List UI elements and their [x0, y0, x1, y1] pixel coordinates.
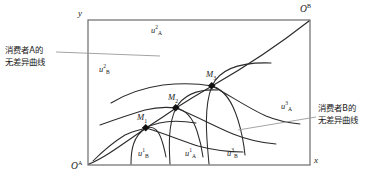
- annotation-consumer-b-line1: 消费者B的: [318, 103, 359, 115]
- point-label-M3: M3: [206, 70, 216, 82]
- M1-sub: 1: [144, 118, 147, 124]
- curve-label-u3A: u3A: [281, 101, 292, 113]
- leader-line-consumer-a: [56, 52, 160, 56]
- M2-sub: 2: [175, 98, 178, 104]
- edgeworth-box-figure: y x OA OB u2A u2B u3A u1B u1A u3B M1 M2 …: [0, 0, 381, 187]
- leader-line-consumer-b: [238, 117, 316, 130]
- contract-curve: [89, 21, 309, 164]
- annotation-consumer-a: 消费者A的 无差异曲线: [5, 45, 46, 68]
- curve-label-u2A: u2A: [151, 25, 162, 37]
- annotation-consumer-b-line2: 无差异曲线: [318, 115, 359, 127]
- origin-b-label: OB: [300, 3, 311, 15]
- y-axis-label: y: [78, 9, 82, 18]
- origin-a-base: O: [71, 161, 78, 171]
- annotation-leader-lines: [56, 52, 316, 130]
- origin-b-base: O: [300, 4, 307, 14]
- u1B-sub: B: [145, 153, 149, 159]
- consumer-a-indifference-curves: [131, 63, 271, 164]
- curve-label-u2B: u2B: [99, 64, 110, 76]
- M3-sub: 3: [213, 75, 216, 81]
- annotation-consumer-a-line1: 消费者A的: [5, 45, 46, 57]
- u2A-sub: A: [158, 30, 162, 36]
- point-label-M1: M1: [137, 113, 147, 125]
- u3A-sub: A: [288, 106, 292, 112]
- origin-a-label: OA: [71, 160, 82, 172]
- origin-a-sup: A: [78, 160, 82, 166]
- u3B-sub: B: [234, 153, 238, 159]
- u1A-sub: A: [192, 153, 196, 159]
- origin-b-sup: B: [307, 3, 311, 9]
- edgeworth-box-frame: [88, 20, 310, 165]
- curve-label-u3B: u3B: [227, 148, 238, 160]
- point-label-M2: M2: [168, 93, 178, 105]
- annotation-consumer-b: 消费者B的 无差异曲线: [318, 103, 359, 126]
- curve-label-u1B: u1B: [138, 148, 149, 160]
- annotation-consumer-a-line2: 无差异曲线: [5, 57, 46, 69]
- u2B-sub: B: [106, 69, 110, 75]
- x-axis-label: x: [314, 156, 318, 165]
- curve-label-u1A: u1A: [185, 148, 196, 160]
